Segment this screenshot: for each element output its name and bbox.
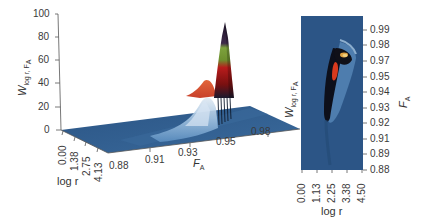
fa-tick-095: 0.95	[216, 137, 235, 147]
logr-tick-1: 1.38	[70, 152, 80, 171]
hm-y-tick-098: 0.98	[370, 40, 389, 50]
hm-x-tick-3: 3.38	[342, 184, 352, 203]
logr-tick-2: 2.75	[82, 157, 92, 176]
z-tick-20: 20	[38, 102, 49, 112]
z-tick-40: 40	[38, 78, 49, 88]
hm-x-tick-4: 4.50	[357, 184, 367, 203]
logr-axis-title: log r	[57, 176, 78, 187]
fa-axis-title: FA	[193, 158, 204, 171]
z-tick-80: 80	[38, 32, 49, 42]
surface-secondary-peak	[186, 80, 217, 98]
hm-w-label: Wlog r, FA	[284, 82, 300, 118]
hm-y-tick-089: 0.89	[370, 149, 389, 159]
hm-y-tick-097: 0.97	[370, 56, 389, 66]
hm-y-tick-099: 0.99	[370, 25, 389, 35]
hm-y-tick-088: 0.88	[370, 165, 389, 175]
hm-y-tick-092: 0.92	[370, 118, 389, 128]
hm-y-tick-093: 0.93	[370, 103, 389, 113]
heatmap-plot	[301, 16, 367, 173]
hm-x-tick-0: 0.00	[297, 184, 307, 203]
logr-tick-3: 4.13	[94, 163, 104, 182]
z-tick-100: 100	[33, 9, 50, 19]
z-axis-title: Wlog r, FA	[17, 60, 33, 96]
hm-x-axis-title: log r	[321, 206, 342, 217]
fa-tick-098: 0.98	[251, 127, 270, 137]
hm-y-tick-095: 0.95	[370, 72, 389, 82]
hm-y-tick-094: 0.94	[370, 87, 389, 97]
fa-tick-088: 0.88	[109, 161, 128, 171]
hm-x-tick-1: 1.13	[312, 184, 322, 203]
z-tick-60: 60	[38, 55, 49, 65]
figure: 100 80 60 40 20 0 Wlog r, FA 0.00 1.38 2…	[0, 0, 428, 221]
logr-tick-0: 0.00	[58, 146, 68, 165]
hm-y-tick-091: 0.91	[370, 134, 389, 144]
z-axis	[55, 14, 61, 130]
fa-tick-091: 0.91	[145, 155, 164, 165]
hm-x-tick-2: 2.25	[327, 184, 337, 203]
z-tick-0: 0	[44, 125, 50, 135]
hm-y-axis-title: FA	[398, 97, 411, 108]
